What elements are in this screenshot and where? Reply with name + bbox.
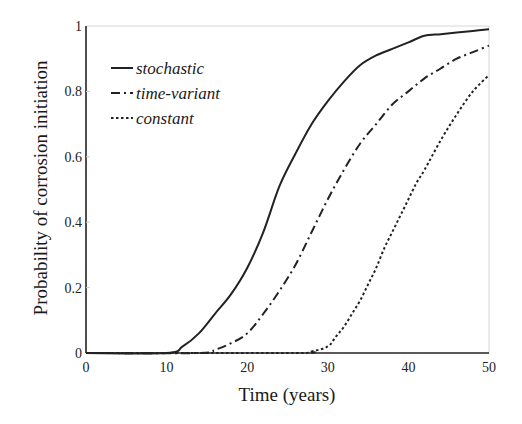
x-tick-label: 40 [401, 360, 415, 375]
x-tick-label: 30 [321, 360, 335, 375]
x-tick-label: 0 [83, 360, 90, 375]
y-tick-label: 0.8 [65, 84, 83, 99]
x-axis-label: Time (years) [239, 384, 336, 406]
y-axis-label: Probability of corrosion initiation [30, 60, 51, 315]
legend-label-constant: constant [136, 109, 195, 128]
x-tick-label: 50 [482, 360, 496, 375]
legend-label-stochastic: stochastic [136, 59, 204, 78]
y-tick-label: 0.2 [65, 281, 83, 296]
y-tick-label: 0.4 [65, 215, 83, 230]
x-tick-label: 20 [240, 360, 254, 375]
y-tick-label: 1 [75, 19, 82, 34]
x-tick-label: 10 [160, 360, 174, 375]
y-tick-label: 0.6 [65, 150, 83, 165]
line-chart: 01020304050 00.20.40.60.81 stochastic ti… [0, 0, 522, 424]
y-tick-label: 0 [75, 346, 82, 361]
legend-label-time-variant: time-variant [136, 84, 221, 103]
legend: stochastic time-variant constant [111, 59, 221, 128]
x-axis-ticks: 01020304050 [83, 360, 497, 375]
